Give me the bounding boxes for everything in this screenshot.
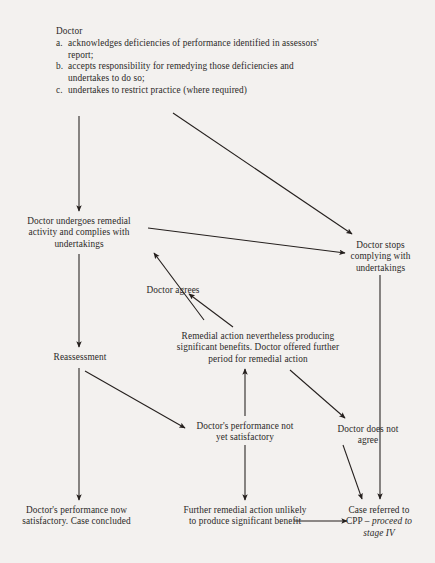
cpp-italic-2: stage IV — [363, 528, 395, 538]
node-doctor-stops-complying: Doctor stops complying with undertakings — [338, 240, 423, 274]
cpp-line-2: CPP – — [346, 516, 372, 526]
cpp-italic-1: proceed to — [372, 516, 412, 526]
node-case-referred-to-cpp: Case referred to CPP – proceed to stage … — [330, 505, 428, 539]
node-doctor-conditions: Doctor a. acknowledges deficiencies of p… — [56, 26, 326, 96]
list-item: a. acknowledges deficiencies of performa… — [56, 38, 326, 61]
node-remedial-action-producing-benefits: Remedial action nevertheless producing s… — [172, 331, 344, 365]
list-item: b. accepts responsibility for remedying … — [56, 61, 326, 84]
node-undergoes-remedial-activity: Doctor undergoes remedial activity and c… — [14, 216, 144, 250]
list-marker: c. — [56, 85, 68, 96]
node-doctor-agrees: Doctor agrees — [133, 285, 213, 296]
list-marker: a. — [56, 38, 68, 49]
flowchart-canvas: Doctor a. acknowledges deficiencies of p… — [0, 0, 435, 563]
node-doctor-does-not-agree: Doctor does not agree — [330, 424, 406, 447]
list-text: undertakes to restrict practice (where r… — [68, 85, 326, 96]
doctor-heading: Doctor — [56, 26, 326, 37]
node-reassessment: Reassessment — [30, 352, 130, 363]
list-text: accepts responsibility for remedying tho… — [68, 61, 326, 84]
edge-does-not-agree-to-cpp — [343, 445, 362, 499]
edge-remedial-benefits-to-doctor-agrees — [189, 294, 233, 327]
node-performance-not-yet-satisfactory: Doctor's performance not yet satisfactor… — [190, 421, 300, 444]
edge-undergoes-to-stops-complying — [148, 228, 345, 253]
node-further-remedial-action-unlikely: Further remedial action unlikely to prod… — [183, 505, 307, 528]
list-item: c. undertakes to restrict practice (wher… — [56, 85, 326, 96]
edge-reassessment-to-not-yet-satisfactory — [85, 371, 185, 428]
list-text: acknowledges deficiencies of performance… — [68, 38, 326, 61]
cpp-line-1: Case referred to — [349, 505, 410, 515]
node-performance-now-satisfactory: Doctor's performance now satisfactory. C… — [14, 505, 139, 528]
list-marker: b. — [56, 61, 68, 72]
edge-reassessment-to-does-not-agree — [290, 370, 345, 418]
edge-doctor-list-to-stops-complying — [173, 113, 352, 234]
